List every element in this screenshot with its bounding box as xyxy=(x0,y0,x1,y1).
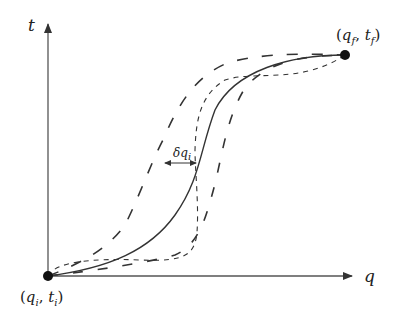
start-point xyxy=(43,271,53,281)
t-axis-label: t xyxy=(28,15,35,35)
true-path-curve xyxy=(48,55,345,276)
varied-path-short-curve xyxy=(48,55,345,276)
trajectory-diagram: t q δqi (qi, ti) (qf, tf) xyxy=(0,0,413,327)
varied-path-right-curve xyxy=(48,55,345,276)
end-point xyxy=(340,50,350,60)
end-point-label: (qf, tf) xyxy=(336,26,380,46)
q-axis-label: q xyxy=(364,266,375,286)
varied-path-left-curve xyxy=(48,54,345,276)
start-point-label: (qi, ti) xyxy=(20,288,63,308)
delta-q-label: δqi xyxy=(173,146,191,162)
